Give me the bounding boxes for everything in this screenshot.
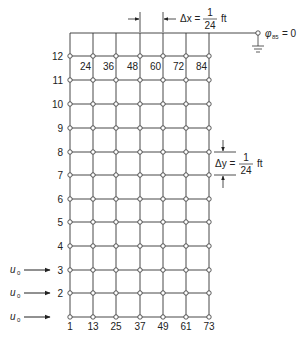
grid-node (184, 244, 188, 248)
grid-node (138, 78, 142, 82)
grid-node (68, 291, 72, 295)
grid-node (68, 78, 72, 82)
grid-node (138, 244, 142, 248)
grid-node (207, 220, 211, 224)
grid-node (114, 244, 118, 248)
grid-node (91, 54, 95, 58)
grid-node (184, 268, 188, 272)
grid-node (207, 126, 211, 130)
row-label: 12 (52, 51, 64, 62)
u0-label: u (10, 287, 16, 298)
grid-node (138, 102, 142, 106)
grid-node (68, 54, 72, 58)
grid-node (184, 173, 188, 177)
inflow-arrows: u0u0u0 (10, 264, 50, 323)
inflow-arrow: u0 (10, 264, 50, 276)
u0-label: u (10, 311, 16, 322)
grid-node (161, 268, 165, 272)
dx-denominator: 24 (204, 20, 216, 31)
grid-node (138, 126, 142, 130)
grid-node (91, 173, 95, 177)
bottom-node-label: 49 (157, 321, 169, 332)
grid-node (161, 291, 165, 295)
labels: 234567891011122436486072841132537496173 (52, 51, 215, 333)
grid-node (114, 102, 118, 106)
grid-node (161, 126, 165, 130)
bottom-node-label: 37 (134, 321, 146, 332)
u0-subscript: 0 (17, 270, 21, 276)
bottom-node-label: 25 (110, 321, 122, 332)
grid-node (207, 102, 211, 106)
phi-symbol: φ (265, 28, 272, 39)
grid-node (184, 54, 188, 58)
phi-subscript: 85 (272, 34, 279, 40)
grid-node (161, 197, 165, 201)
top-node-label: 60 (150, 61, 162, 72)
bottom-node-label: 61 (180, 321, 192, 332)
ground-node: φ 85 = 0 (209, 28, 297, 52)
row-label: 9 (57, 123, 63, 134)
grid-node (161, 54, 165, 58)
dy-numerator: 1 (243, 152, 249, 163)
grid-node (91, 126, 95, 130)
grid-node (91, 244, 95, 248)
row-label: 2 (57, 288, 63, 299)
grid-node (68, 268, 72, 272)
dy-unit: ft (257, 158, 263, 169)
top-node-label: 84 (196, 61, 208, 72)
grid-node (184, 78, 188, 82)
u0-subscript: 0 (17, 293, 21, 299)
grid-node (138, 150, 142, 154)
grid-node (184, 315, 188, 319)
grid-node (207, 268, 211, 272)
grid-node (138, 173, 142, 177)
grid-node (161, 150, 165, 154)
grid-node (91, 315, 95, 319)
dy-dimension: Δy = 1 24 ft (214, 140, 263, 188)
phi-equals: = 0 (282, 28, 297, 39)
dy-denominator: 24 (240, 165, 252, 176)
grid-node (138, 220, 142, 224)
grid-node (114, 291, 118, 295)
dx-prefix: Δx = (180, 13, 200, 24)
grid-node (184, 102, 188, 106)
grid-node (68, 173, 72, 177)
grid-node (207, 315, 211, 319)
row-label: 8 (57, 147, 63, 158)
grid-node (138, 315, 142, 319)
grid-node (138, 197, 142, 201)
grid-node (114, 173, 118, 177)
row-label: 5 (57, 217, 63, 228)
grid-node (184, 197, 188, 201)
grid-node (91, 220, 95, 224)
grid-node (68, 126, 72, 130)
grid-node (161, 220, 165, 224)
grid-node (68, 315, 72, 319)
row-label: 11 (53, 75, 64, 86)
grid-node (161, 78, 165, 82)
grid-node (114, 150, 118, 154)
grid-node (207, 197, 211, 201)
top-node-label: 48 (127, 61, 139, 72)
row-label: 10 (52, 99, 64, 110)
grid-node (161, 315, 165, 319)
dx-dimension: Δx = 1 24 ft (128, 7, 227, 32)
grid-node (184, 126, 188, 130)
grid-node (68, 102, 72, 106)
grid-node (91, 78, 95, 82)
grid-node (207, 244, 211, 248)
grid-nodes (68, 54, 211, 319)
grid-node (184, 150, 188, 154)
grid-node (138, 291, 142, 295)
grid-node (91, 150, 95, 154)
grid-node (161, 102, 165, 106)
ground-icon (252, 46, 264, 52)
row-label: 7 (57, 170, 63, 181)
bottom-node-label: 1 (67, 321, 73, 332)
inflow-arrow: u0 (10, 287, 50, 299)
grid-node (114, 268, 118, 272)
grid-node (184, 291, 188, 295)
grid-node (207, 78, 211, 82)
grid-node (114, 78, 118, 82)
grid-node (138, 268, 142, 272)
